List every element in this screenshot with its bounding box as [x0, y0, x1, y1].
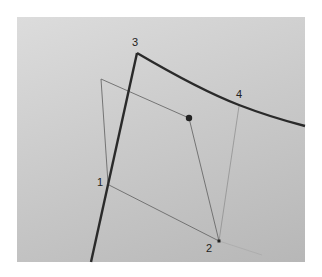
point-label-3: 3 — [132, 36, 138, 48]
center-dot — [186, 115, 192, 121]
point-label-1: 1 — [97, 176, 103, 188]
faint-line-4-to-2 — [219, 106, 239, 241]
thin-line-topleft-to-1 — [101, 79, 108, 183]
diagram-canvas: 1 2 3 4 — [0, 0, 322, 277]
thin-line-dot-to-2 — [189, 118, 219, 241]
point-label-4: 4 — [236, 88, 242, 100]
point-label-2: 2 — [206, 242, 212, 254]
thin-line-topleft-to-dot — [101, 79, 189, 118]
thick-curve-3-to-4 — [137, 53, 305, 126]
thin-line-1-to-2 — [109, 185, 219, 241]
faint-line-2-extension — [219, 241, 262, 255]
point-2-marker — [218, 240, 221, 243]
